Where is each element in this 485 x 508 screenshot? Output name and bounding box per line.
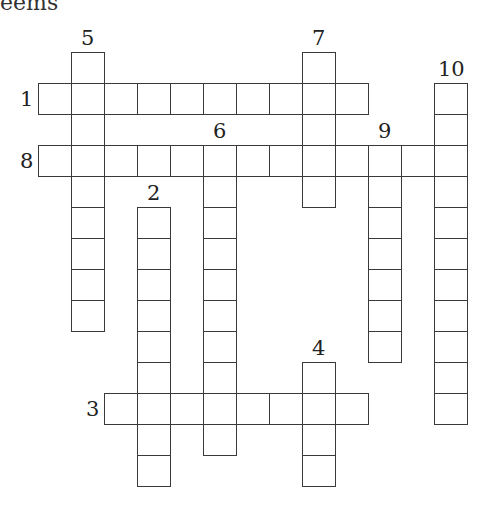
crossword-cell[interactable] [434,269,468,301]
crossword-cell[interactable] [302,52,336,84]
crossword-cell[interactable] [269,393,303,425]
crossword-cell[interactable] [137,238,171,270]
crossword-cell[interactable] [302,83,336,115]
crossword-cell[interactable] [104,393,138,425]
crossword-cell[interactable] [335,145,369,177]
crossword-cell[interactable] [104,145,138,177]
crossword-cell[interactable] [104,83,138,115]
crossword-cell[interactable] [203,269,237,301]
crossword-cell[interactable] [302,114,336,146]
crossword-cell[interactable] [71,238,105,270]
crossword-cell[interactable] [302,176,336,208]
crossword-cell[interactable] [71,300,105,332]
crossword-cell[interactable] [203,362,237,394]
crossword-cell[interactable] [203,238,237,270]
crossword-cell[interactable] [434,331,468,363]
crossword-cell[interactable] [203,207,237,239]
clue-number-2: 2 [147,183,160,204]
crossword-cell[interactable] [203,83,237,115]
crossword-cell[interactable] [203,424,237,456]
crossword-cell[interactable] [434,238,468,270]
crossword-cell[interactable] [434,393,468,425]
crossword-cell[interactable] [203,331,237,363]
crossword-cell[interactable] [137,455,171,487]
crossword-cell[interactable] [71,176,105,208]
crossword-cell[interactable] [71,114,105,146]
crossword-cell[interactable] [434,83,468,115]
crossword-cell[interactable] [335,393,369,425]
crossword-cell[interactable] [137,362,171,394]
crossword-cell[interactable] [203,300,237,332]
crossword-cell[interactable] [236,83,270,115]
crossword-cell[interactable] [434,362,468,394]
crossword-cell[interactable] [368,300,402,332]
crossword-cell[interactable] [368,331,402,363]
crossword-cell[interactable] [368,269,402,301]
crossword-cell[interactable] [38,145,72,177]
clue-number-1: 1 [20,89,33,110]
crossword-cell[interactable] [236,145,270,177]
crossword-cell[interactable] [269,145,303,177]
crossword-cell[interactable] [137,300,171,332]
crossword-cell[interactable] [368,145,402,177]
crossword-cell[interactable] [434,207,468,239]
crossword-cell[interactable] [368,176,402,208]
crossword-cell[interactable] [71,207,105,239]
crossword-cell[interactable] [137,83,171,115]
crossword-cell[interactable] [170,393,204,425]
crossword-cell[interactable] [203,393,237,425]
crossword-cell[interactable] [137,207,171,239]
clue-number-10: 10 [438,59,465,80]
crossword-cell[interactable] [302,424,336,456]
crossword-cell[interactable] [137,269,171,301]
crossword-cell[interactable] [434,145,468,177]
crossword-cell[interactable] [368,238,402,270]
crossword-cell[interactable] [137,393,171,425]
crossword-grid: 18357106924 [0,0,485,508]
crossword-cell[interactable] [38,83,72,115]
clue-number-9: 9 [378,121,391,142]
crossword-cell[interactable] [269,83,303,115]
clue-number-3: 3 [86,399,99,420]
clue-number-8: 8 [20,151,33,172]
clue-number-5: 5 [81,28,94,49]
crossword-cell[interactable] [203,176,237,208]
crossword-cell[interactable] [71,145,105,177]
crossword-cell[interactable] [137,331,171,363]
crossword-cell[interactable] [170,83,204,115]
crossword-cell[interactable] [434,114,468,146]
crossword-cell[interactable] [368,207,402,239]
crossword-cell[interactable] [434,176,468,208]
crossword-cell[interactable] [71,269,105,301]
crossword-cell[interactable] [71,52,105,84]
crossword-cell[interactable] [302,145,336,177]
crossword-cell[interactable] [302,362,336,394]
crossword-cell[interactable] [302,393,336,425]
crossword-cell[interactable] [71,83,105,115]
crossword-cell[interactable] [137,424,171,456]
crossword-cell[interactable] [236,393,270,425]
crossword-cell[interactable] [302,455,336,487]
crossword-cell[interactable] [203,145,237,177]
clue-number-7: 7 [312,28,325,49]
crossword-cell[interactable] [434,300,468,332]
crossword-cell[interactable] [335,83,369,115]
clue-number-6: 6 [213,121,226,142]
crossword-cell[interactable] [170,145,204,177]
clue-number-4: 4 [312,338,325,359]
crossword-cell[interactable] [137,145,171,177]
crossword-cell[interactable] [401,145,435,177]
